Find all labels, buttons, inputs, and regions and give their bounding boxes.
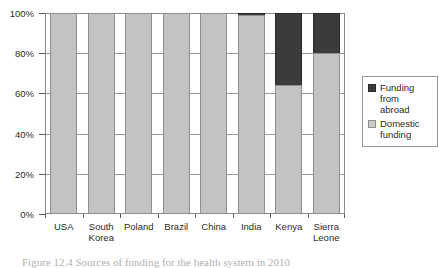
bar-segment-abroad (275, 13, 302, 85)
legend-label-line: Funding (380, 82, 414, 93)
bar-brazil (163, 13, 190, 214)
x-category-label: Kenya (270, 221, 308, 232)
bar-south-korea (88, 13, 115, 214)
y-tick-label: 0% (20, 210, 34, 220)
legend-entry-funding-from-abroad: Funding from abroad (368, 82, 433, 115)
y-axis: 100% 80% 60% 40% 20% 0% (0, 0, 45, 228)
x-tick-mark (83, 214, 84, 218)
dark-swatch-icon (368, 84, 376, 92)
y-tick-label: 40% (15, 130, 34, 140)
figure-caption: Figure 12.4 Sources of funding for the h… (22, 256, 422, 268)
bar-usa (50, 13, 77, 214)
x-category-usa: USA (45, 214, 83, 254)
x-category-label: Poland (120, 221, 158, 232)
x-tick-mark (308, 214, 309, 218)
bar-slot (45, 13, 83, 214)
figure-stacked-bar-chart: 100% 80% 60% 40% 20% 0% (0, 0, 439, 268)
legend-label-line: Domestic (380, 118, 420, 129)
x-tick-mark (233, 214, 234, 218)
bar-slot (195, 13, 233, 214)
y-tick-label: 60% (15, 89, 34, 99)
x-tick-mark (158, 214, 159, 218)
x-category-china: China (195, 214, 233, 254)
y-tick-label: 100% (10, 9, 34, 19)
bar-india (238, 13, 265, 214)
legend-label-line: funding (380, 129, 420, 140)
legend-label-group: Domestic funding (380, 118, 420, 140)
x-category-label: Brazil (158, 221, 196, 232)
chart-legend: Funding from abroad Domestic funding (362, 76, 438, 147)
x-category-label: China (195, 221, 233, 232)
x-category-south-korea: South Korea (83, 214, 121, 254)
bar-slot (233, 13, 271, 214)
x-axis: USA South Korea Poland Brazil China Indi… (45, 214, 345, 254)
x-tick-mark (270, 214, 271, 218)
x-tick-mark (195, 214, 196, 218)
legend-entry-domestic-funding: Domestic funding (368, 118, 433, 140)
bars-layer (45, 13, 345, 214)
legend-label-line: abroad (380, 104, 414, 115)
bar-segment-abroad (313, 13, 340, 53)
y-tick-label: 80% (15, 49, 34, 59)
x-category-poland: Poland (120, 214, 158, 254)
legend-label-line: from (380, 93, 414, 104)
bar-slot (308, 13, 346, 214)
x-category-label: Sierra (308, 221, 346, 232)
light-swatch-icon (368, 120, 376, 128)
x-category-india: India (233, 214, 271, 254)
x-category-label-line2: Korea (83, 232, 121, 243)
legend-label-group: Funding from abroad (380, 82, 414, 115)
x-category-label: South (83, 221, 121, 232)
bar-slot (158, 13, 196, 214)
bar-segment-domestic (125, 13, 152, 214)
bar-sierra-leone (313, 13, 340, 214)
x-category-sierra-leone: Sierra Leone (308, 214, 346, 254)
bar-segment-domestic (163, 13, 190, 214)
bar-china (200, 13, 227, 214)
bar-segment-domestic (88, 13, 115, 214)
bar-slot (120, 13, 158, 214)
bar-segment-domestic (275, 85, 302, 214)
x-category-label: USA (45, 221, 83, 232)
bar-slot (270, 13, 308, 214)
x-tick-mark (120, 214, 121, 218)
x-category-label: India (233, 221, 271, 232)
bar-segment-domestic (238, 15, 265, 214)
bar-segment-domestic (50, 13, 77, 214)
x-category-brazil: Brazil (158, 214, 196, 254)
x-category-kenya: Kenya (270, 214, 308, 254)
bar-segment-domestic (313, 53, 340, 214)
x-tick-mark (45, 214, 46, 218)
bar-slot (83, 13, 121, 214)
bar-kenya (275, 13, 302, 214)
x-category-label-line2: Leone (308, 232, 346, 243)
y-tick-label: 20% (15, 170, 34, 180)
bar-poland (125, 13, 152, 214)
bar-segment-domestic (200, 13, 227, 214)
x-tick-mark (344, 214, 345, 218)
